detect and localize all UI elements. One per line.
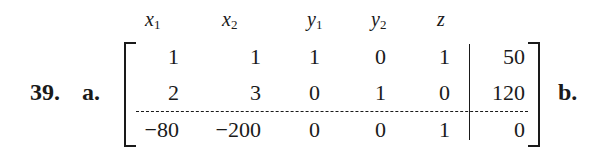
cell: 120	[465, 80, 525, 106]
problem-number: 39.	[30, 79, 60, 106]
dashed-separator	[136, 111, 528, 112]
cell: 1	[326, 80, 386, 106]
cell: 3	[201, 80, 261, 106]
cell: 1	[119, 44, 179, 70]
cell: −80	[119, 117, 179, 143]
header-y2: y2	[371, 8, 386, 33]
right-bracket	[528, 42, 540, 147]
part-b-label: b.	[558, 79, 577, 106]
part-a-label: a.	[82, 79, 100, 106]
cell: 1	[201, 44, 261, 70]
cell: 0	[326, 117, 386, 143]
cell: 2	[119, 80, 179, 106]
header-y1: y1	[307, 8, 322, 33]
cell: 1	[390, 117, 450, 143]
cell: −200	[201, 117, 261, 143]
header-x1: x1	[145, 8, 160, 33]
cell: 0	[465, 117, 525, 143]
cell: 1	[260, 44, 320, 70]
cell: 0	[260, 117, 320, 143]
header-z: z	[437, 8, 445, 33]
cell: 0	[260, 80, 320, 106]
cell: 0	[390, 80, 450, 106]
cell: 1	[390, 44, 450, 70]
cell: 0	[326, 44, 386, 70]
cell: 50	[465, 44, 525, 70]
header-x2: x2	[222, 8, 237, 33]
